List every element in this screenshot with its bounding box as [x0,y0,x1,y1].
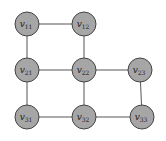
node-label-subscript: 31 [25,116,33,123]
node-v33: v33 [130,105,154,129]
grid-graph-diagram: v11v12v21v22v23v31v32v33 [0,0,166,141]
node-label-subscript: 32 [82,116,90,123]
node-label-subscript: 33 [140,116,148,123]
node-label-subscript: 23 [138,69,146,76]
nodes-layer: v11v12v21v22v23v31v32v33 [15,12,154,129]
node-label-subscript: 11 [25,23,33,30]
node-v32: v32 [72,105,96,129]
node-label-subscript: 21 [25,69,33,76]
node-label-subscript: 22 [82,69,90,76]
node-v22: v22 [72,58,96,82]
node-v31: v31 [15,105,39,129]
node-label-subscript: 12 [82,23,90,30]
node-v21: v21 [15,58,39,82]
node-v23: v23 [128,58,152,82]
node-v11: v11 [15,12,39,36]
node-v12: v12 [72,12,96,36]
